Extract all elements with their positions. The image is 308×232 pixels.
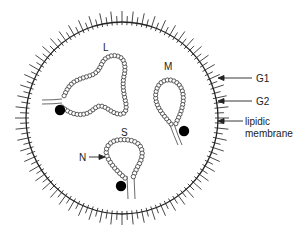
- N-arrow: [89, 155, 105, 160]
- segment-S: [104, 137, 144, 199]
- G2-label: G2: [256, 96, 269, 107]
- G2-arrow: [218, 99, 252, 104]
- glycoprotein-spikes: [15, 11, 229, 225]
- G1-label: G1: [256, 73, 269, 84]
- segment-S-polymerase-dot: [116, 181, 126, 191]
- nucleocapsid-N-label: N: [79, 152, 86, 163]
- segment-M-nucleocapsid-beads: [154, 78, 186, 126]
- G1-arrow: [218, 76, 252, 81]
- segment-S-label: S: [121, 127, 128, 138]
- segment-L-polymerase-dot: [55, 105, 65, 115]
- segment-S-tail: [127, 176, 135, 199]
- segment-L: [42, 53, 128, 116]
- segment-L-tail: [42, 99, 62, 104]
- segment-L-label: L: [103, 42, 109, 53]
- segment-L-nucleocapsid-beads: [60, 53, 128, 116]
- membrane-arrow: [218, 119, 243, 124]
- lipidic-membrane-label-line2: membrane: [245, 128, 293, 139]
- segment-M-label: M: [164, 61, 172, 72]
- segment-S-nucleocapsid-beads: [104, 137, 144, 180]
- lipidic-membrane-label-line1: lipidic: [245, 116, 270, 127]
- segment-M: [154, 78, 190, 145]
- segment-M-polymerase-dot: [179, 126, 189, 136]
